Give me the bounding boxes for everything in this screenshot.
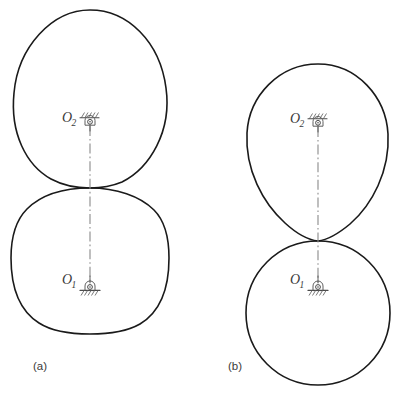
hatch-tick bbox=[81, 291, 84, 296]
pivot-pin-center bbox=[317, 122, 319, 124]
lower-cam-b-outline bbox=[246, 241, 390, 385]
figure-root: O 2 O 1 bbox=[0, 0, 408, 395]
hatch-tick bbox=[313, 291, 316, 296]
hatch-tick bbox=[316, 291, 319, 296]
pivot-o1-a bbox=[80, 276, 100, 296]
hatch-tick bbox=[324, 114, 327, 119]
pivot-o1-b bbox=[308, 276, 328, 296]
pivot-o2-subscript-a: 2 bbox=[72, 118, 77, 128]
panel-caption-b: (b) bbox=[228, 360, 242, 372]
hatch-tick bbox=[310, 114, 313, 119]
hatch-tick bbox=[95, 291, 98, 296]
hatch-tick bbox=[92, 291, 95, 296]
hatch-tick bbox=[317, 114, 320, 119]
pivot-o2-b bbox=[308, 114, 327, 133]
pivot-pin-center bbox=[89, 286, 91, 288]
pivot-o1-subscript-b: 1 bbox=[300, 280, 305, 290]
pivot-pin-center bbox=[317, 286, 319, 288]
hatch-tick bbox=[320, 291, 323, 296]
pivot-pin-center bbox=[89, 121, 91, 123]
hatch-tick bbox=[323, 291, 326, 296]
panel-caption-a: (a) bbox=[33, 360, 47, 372]
hatch-tick bbox=[88, 291, 91, 296]
hatch-tick bbox=[85, 291, 88, 296]
pivot-o1-subscript-a: 1 bbox=[72, 280, 77, 290]
panel-a: O 2 O 1 bbox=[11, 10, 169, 372]
mechanism-diagram: O 2 O 1 bbox=[0, 0, 408, 395]
hatch-tick bbox=[82, 113, 85, 118]
hatch-tick bbox=[96, 113, 99, 118]
panel-b: O 2 O 1 (b) bbox=[228, 64, 390, 385]
hatch-tick bbox=[309, 291, 312, 296]
pivot-o2-a bbox=[80, 113, 99, 132]
pivot-o2-subscript-b: 2 bbox=[300, 119, 305, 129]
